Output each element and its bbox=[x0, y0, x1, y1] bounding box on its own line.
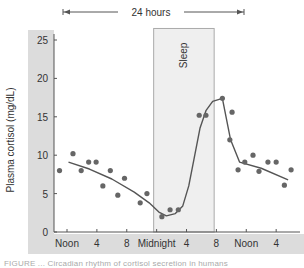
data-point bbox=[115, 193, 120, 198]
data-point bbox=[242, 160, 247, 165]
data-point bbox=[256, 169, 261, 174]
data-point bbox=[144, 191, 149, 196]
data-point bbox=[274, 160, 279, 165]
data-point bbox=[57, 168, 62, 173]
data-point bbox=[79, 168, 84, 173]
data-point bbox=[159, 214, 164, 219]
x-tick-label: 8 bbox=[124, 238, 130, 249]
x-tick-label: Midnight bbox=[138, 238, 176, 249]
data-point bbox=[203, 113, 208, 118]
data-point bbox=[229, 110, 234, 115]
y-axis-label: Plasma cortisol (mg/dL) bbox=[5, 87, 16, 192]
y-tick-label: 5 bbox=[42, 189, 48, 200]
yaxis-label-band bbox=[28, 30, 54, 240]
y-tick-label: 15 bbox=[37, 112, 49, 123]
x-tick-label: Noon bbox=[234, 238, 258, 249]
data-point bbox=[197, 113, 202, 118]
x-tick-label: Noon bbox=[55, 238, 79, 249]
data-point bbox=[235, 167, 240, 172]
figure-caption: FIGURE ... Circadian rhythm of cortisol … bbox=[4, 259, 228, 268]
y-tick-label: 25 bbox=[37, 35, 49, 46]
data-point bbox=[70, 151, 75, 156]
x-tick-label: 4 bbox=[94, 238, 100, 249]
arrow-left-icon bbox=[64, 10, 70, 15]
data-point bbox=[265, 160, 270, 165]
data-point bbox=[138, 200, 143, 205]
y-tick-label: 20 bbox=[37, 73, 49, 84]
data-point bbox=[108, 168, 113, 173]
x-tick-label: 4 bbox=[184, 238, 190, 249]
y-tick-label: 0 bbox=[42, 227, 48, 238]
data-point bbox=[122, 176, 127, 181]
data-point bbox=[94, 160, 99, 165]
data-point bbox=[176, 207, 181, 212]
x-tick-label: 8 bbox=[214, 238, 220, 249]
span-label: 24 hours bbox=[132, 7, 171, 18]
arrow-right-icon bbox=[237, 10, 243, 15]
data-point bbox=[250, 153, 255, 158]
data-point bbox=[167, 207, 172, 212]
data-point bbox=[86, 160, 91, 165]
data-point bbox=[100, 183, 105, 188]
data-point bbox=[220, 96, 225, 101]
x-tick-label: 4 bbox=[273, 238, 279, 249]
y-tick-label: 10 bbox=[37, 150, 49, 161]
span-24-hours: 24 hours bbox=[63, 7, 244, 18]
data-point bbox=[289, 167, 294, 172]
sleep-label: Sleep bbox=[178, 42, 189, 68]
data-point bbox=[227, 137, 232, 142]
data-point bbox=[282, 183, 287, 188]
